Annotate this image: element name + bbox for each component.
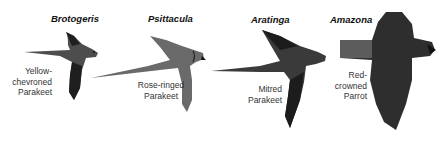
parrot-flight-figure: Brotogeris Yellow- chevroned Parakeet Ps…: [0, 0, 447, 142]
genus-label-amazona: Amazona: [330, 14, 372, 25]
genus-label-aratinga: Aratinga: [251, 14, 290, 25]
common-name-yellow-chevroned-parakeet: Yellow- chevroned Parakeet: [10, 66, 52, 98]
common-name-mitred-parakeet: Mitred Parakeet: [236, 84, 282, 105]
aratinga-silhouette: [211, 30, 326, 128]
genus-label-brotogeris: Brotogeris: [51, 13, 99, 24]
genus-label-psittacula: Psittacula: [148, 13, 193, 24]
common-name-red-crowned-parrot: Red- crowned Parrot: [325, 70, 367, 102]
common-name-rose-ringed-parakeet: Rose-ringed Parakeet: [126, 80, 196, 101]
